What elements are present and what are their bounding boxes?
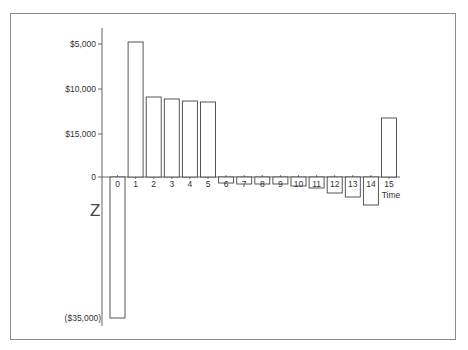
x-tick-label: 11 [312, 179, 321, 189]
x-tick-label: 5 [206, 179, 211, 189]
bar-period-15 [382, 118, 397, 177]
x-tick-label: 3 [169, 179, 174, 189]
y-tick-label: $5,000 [70, 39, 96, 49]
y-tick-label: $15,000 [65, 129, 96, 139]
bar-period-4 [182, 101, 197, 177]
bar-period-2 [146, 97, 161, 177]
x-tick-label: 7 [242, 179, 247, 189]
x-tick-label: 4 [188, 179, 193, 189]
bar-period-3 [164, 99, 179, 177]
y-bottom-label: ($35,000) [65, 313, 102, 323]
x-tick-label: 14 [366, 179, 376, 189]
x-tick-label: 8 [260, 179, 265, 189]
x-tick-label: 1 [133, 179, 138, 189]
bar-period-1 [128, 42, 143, 177]
x-tick-label: 9 [278, 179, 283, 189]
x-tick-label: 6 [224, 179, 229, 189]
bar-period-5 [201, 102, 216, 177]
x-tick-label: 0 [115, 179, 120, 189]
bar-period-0 [110, 177, 125, 318]
y-tick-label: 0 [91, 172, 96, 182]
y-tick-label: $10,000 [65, 84, 96, 94]
axis-break-icon: Z [90, 201, 100, 220]
cash-flow-bar-chart: $5,000$10,000$15,0000($35,000)Z012345678… [0, 0, 468, 350]
x-tick-label: 12 [330, 179, 340, 189]
x-tick-label: 2 [151, 179, 156, 189]
x-axis-title: Time [382, 190, 401, 200]
x-tick-label: 10 [294, 179, 304, 189]
x-tick-label: 15 [384, 179, 394, 189]
x-tick-label: 13 [348, 179, 358, 189]
